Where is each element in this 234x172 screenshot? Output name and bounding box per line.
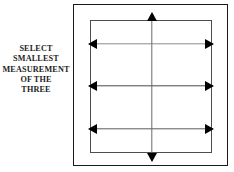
instruction-line-2: SMALLEST	[2, 54, 70, 64]
instruction-text: SELECT SMALLEST MEASUREMENT OF THE THREE	[2, 44, 70, 95]
arrow-head-up-icon	[147, 12, 157, 21]
instruction-line-3: MEASUREMENT	[2, 65, 70, 75]
arrow-head-left-icon	[88, 124, 97, 134]
diagram-canvas: SELECT SMALLEST MEASUREMENT OF THE THREE	[0, 0, 234, 172]
instruction-line-4: OF THE	[2, 75, 70, 85]
arrow-head-right-icon	[205, 81, 214, 91]
arrow-head-left-icon	[88, 81, 97, 91]
instruction-line-5: THREE	[2, 85, 70, 95]
arrow-head-left-icon	[88, 39, 97, 49]
instruction-line-1: SELECT	[2, 44, 70, 54]
arrow-head-down-icon	[147, 153, 157, 162]
arrow-head-right-icon	[205, 39, 214, 49]
arrow-shaft	[151, 13, 152, 161]
arrow-head-right-icon	[205, 124, 214, 134]
vertical-measurement-arrow	[146, 13, 158, 161]
